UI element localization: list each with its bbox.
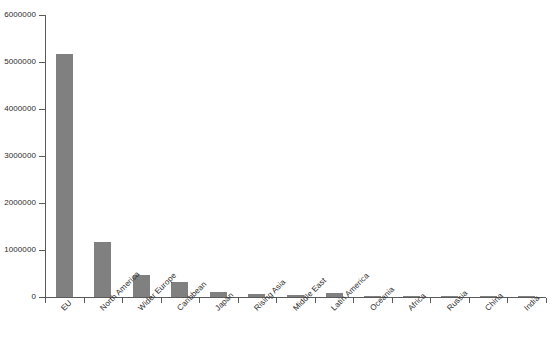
y-axis-tick xyxy=(39,109,45,110)
x-axis-tick xyxy=(199,298,200,303)
x-axis-tick xyxy=(546,298,547,303)
y-axis-tick xyxy=(39,62,45,63)
y-axis-tick xyxy=(39,156,45,157)
y-axis-tick-label: 4000000 xyxy=(4,105,36,113)
y-axis-tick xyxy=(39,250,45,251)
x-axis-tick xyxy=(122,298,123,303)
bar xyxy=(94,242,111,297)
y-axis-tick-label: 5000000 xyxy=(4,58,36,66)
y-axis-tick xyxy=(39,203,45,204)
y-axis-labels: 0100000020000003000000400000050000006000… xyxy=(0,0,36,357)
x-axis-tick xyxy=(315,298,316,303)
y-axis-tick-label: 3000000 xyxy=(4,152,36,160)
x-axis-tick xyxy=(353,298,354,303)
bar-chart: 0100000020000003000000400000050000006000… xyxy=(0,0,558,357)
y-axis-tick xyxy=(39,15,45,16)
x-axis-tick xyxy=(276,298,277,303)
x-axis-tick xyxy=(45,298,46,303)
y-axis-tick-label: 6000000 xyxy=(4,11,36,19)
x-axis-tick xyxy=(392,298,393,303)
plot-area xyxy=(45,15,546,297)
x-axis-tick xyxy=(507,298,508,303)
y-axis-tick-label: 1000000 xyxy=(4,246,36,254)
y-axis-tick-label: 0 xyxy=(31,293,36,301)
x-axis-category-label: EU xyxy=(60,299,74,313)
x-axis-tick xyxy=(161,298,162,303)
x-axis-tick xyxy=(469,298,470,303)
bar xyxy=(56,54,73,297)
y-axis-tick-label: 2000000 xyxy=(4,199,36,207)
y-axis-tick xyxy=(39,297,45,298)
x-axis-tick xyxy=(430,298,431,303)
x-axis-tick xyxy=(84,298,85,303)
x-axis-tick xyxy=(238,298,239,303)
